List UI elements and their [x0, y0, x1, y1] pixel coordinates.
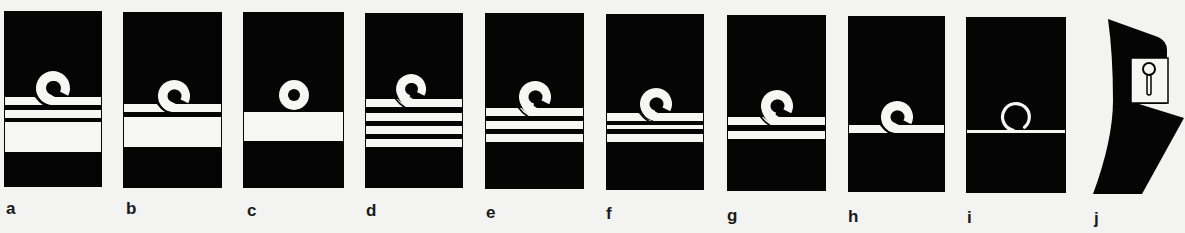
curl-hole [530, 91, 543, 104]
shoulder-board-b [123, 12, 222, 188]
panel-label-c: c [247, 202, 256, 219]
lace-stripe [486, 134, 583, 142]
curl-hole [47, 81, 61, 95]
panel-label-a: a [6, 200, 15, 217]
curl-hole [651, 98, 664, 111]
lace-stripe [607, 125, 703, 129]
panel-label-f: f [606, 205, 612, 222]
curl-tail [172, 104, 221, 112]
shoulder-boards [4, 11, 1066, 193]
shoulder-board-g [727, 15, 826, 191]
curl-hole [406, 83, 418, 95]
lace-stripe [244, 112, 343, 141]
lace-stripe [486, 121, 583, 129]
shoulder-board-f [606, 14, 704, 190]
curl-tail [51, 97, 101, 105]
curl-tail [533, 108, 583, 116]
curl-hole [772, 100, 785, 113]
lace-stripe [366, 113, 462, 121]
insignia-figure [0, 0, 1185, 233]
curl-tail [654, 113, 703, 121]
panel-label-e: e [486, 204, 495, 221]
panel-label-i: i [967, 209, 972, 226]
lace-stripe [728, 131, 825, 139]
lace-stripe [366, 126, 462, 134]
curl-hole [892, 111, 905, 124]
shoulder-board-e [485, 13, 584, 189]
magnifier-icon-head [1143, 63, 1155, 75]
lace-stripe [5, 110, 101, 118]
shoulder-board-d [365, 13, 463, 188]
shoulder-board-c [243, 12, 344, 188]
shoulder-board-h [848, 16, 945, 192]
lace-stripe [366, 139, 462, 147]
collar-tab-j [1093, 19, 1184, 194]
panel-label-b: b [126, 200, 136, 217]
collar-tab-upper-shape [1093, 19, 1184, 194]
curl-hole [169, 90, 182, 103]
lace-stripe [5, 122, 101, 152]
panel-label-h: h [848, 208, 858, 225]
curl-tail [775, 117, 825, 125]
lace-stripe [124, 117, 221, 147]
curl-tail [409, 99, 462, 107]
ring-hole [288, 89, 300, 101]
shoulder-board-a [4, 11, 102, 187]
curl-tail [895, 125, 944, 133]
lace-stripe [967, 130, 1065, 133]
panel-label-d: d [366, 202, 376, 219]
lace-stripe [607, 134, 703, 142]
magnifier-icon-handle [1147, 75, 1151, 95]
panel-label-g: g [727, 207, 737, 224]
panel-label-j: j [1094, 210, 1099, 227]
shoulder-board-i [966, 17, 1066, 193]
